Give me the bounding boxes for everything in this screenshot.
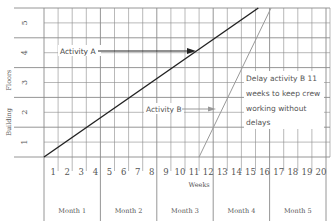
note-line: Delay activity B 11 bbox=[246, 74, 317, 83]
month-label: Month 3 bbox=[171, 207, 199, 215]
x-tick-label: 17 bbox=[273, 167, 284, 177]
x-axis-label: Weeks bbox=[189, 181, 210, 189]
x-tick-label: 20 bbox=[316, 167, 327, 177]
x-tick-label: 3 bbox=[79, 167, 84, 177]
x-tick-label: 19 bbox=[301, 167, 312, 177]
x-tick-label: 15 bbox=[245, 167, 256, 177]
note-line: weeks to keep crew bbox=[246, 89, 320, 98]
y-tick-label: 4 bbox=[20, 50, 29, 55]
y-tick-label: 5 bbox=[20, 20, 29, 25]
x-tick-label: 16 bbox=[259, 167, 270, 177]
x-tick-label: 14 bbox=[231, 167, 242, 177]
month-label: Month 5 bbox=[284, 207, 312, 215]
x-tick-label: 18 bbox=[287, 167, 298, 177]
x-tick-label: 11 bbox=[189, 167, 200, 177]
x-tick-label: 13 bbox=[217, 167, 228, 177]
x-tick-label: 4 bbox=[93, 167, 98, 177]
activity-a-label: Activity A bbox=[60, 47, 96, 56]
note-line: delays bbox=[246, 118, 270, 127]
x-tick-label: 12 bbox=[203, 167, 214, 177]
x-tick-label: 5 bbox=[107, 167, 112, 177]
x-tick-label: 2 bbox=[64, 167, 69, 177]
y-axis-label-2: Floors bbox=[5, 70, 13, 91]
x-tick-label: 1 bbox=[50, 167, 55, 177]
x-tick-label: 10 bbox=[175, 167, 186, 177]
line-of-balance-chart: 1234567891011121314151617181920WeeksMont… bbox=[0, 0, 336, 221]
x-tick-label: 9 bbox=[163, 167, 168, 177]
x-tick-label: 7 bbox=[135, 167, 140, 177]
note-line: working without bbox=[246, 104, 306, 113]
month-label: Month 1 bbox=[58, 207, 86, 215]
month-label: Month 2 bbox=[115, 207, 143, 215]
chart-annotations: Activity AActivity BDelay activity B 11w… bbox=[58, 45, 324, 129]
x-tick-label: 6 bbox=[121, 167, 126, 177]
arrowhead-icon bbox=[208, 107, 216, 112]
x-tick-label: 8 bbox=[149, 167, 154, 177]
y-axis-label: Building bbox=[5, 108, 13, 136]
y-tick-label: 2 bbox=[20, 110, 29, 115]
month-label: Month 4 bbox=[228, 207, 256, 215]
y-tick-label: 3 bbox=[20, 80, 29, 85]
activity-b-label: Activity B bbox=[146, 105, 182, 114]
y-tick-label: 1 bbox=[20, 140, 29, 145]
